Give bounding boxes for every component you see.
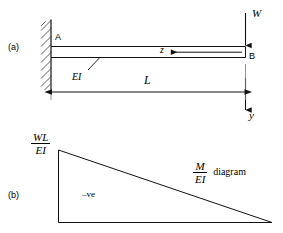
peak-value-denominator: EI: [31, 144, 50, 156]
peak-value-numerator: WL: [31, 131, 50, 144]
beam-node-label-a: A: [55, 33, 61, 42]
mei-label-word: diagram: [213, 166, 246, 177]
stiffness-leader-line: [88, 58, 100, 70]
axis-label-y: y: [249, 110, 254, 121]
mei-label-denominator: EI: [193, 173, 207, 185]
axis-label-z: z: [160, 45, 164, 55]
span-label-l: L: [144, 74, 151, 86]
panel-b-tag: (b): [8, 191, 19, 200]
beam-node-label-b: B: [249, 52, 255, 61]
fixed-support: [41, 20, 51, 91]
stiffness-label-ei: EI: [72, 72, 81, 82]
panel-a-tag: (a): [8, 43, 19, 52]
mei-diagram-label: M EI diagram: [193, 160, 246, 186]
peak-value-label: WL EI: [31, 131, 50, 157]
figure-vector-layer: [0, 0, 283, 233]
sign-label-negative: –ve: [82, 190, 95, 199]
load-label-w: W: [252, 8, 261, 19]
figure-canvas: (a) A B EI W z y L (b) WL EI –ve M EI di…: [0, 0, 283, 233]
mei-label-numerator: M: [193, 160, 207, 173]
